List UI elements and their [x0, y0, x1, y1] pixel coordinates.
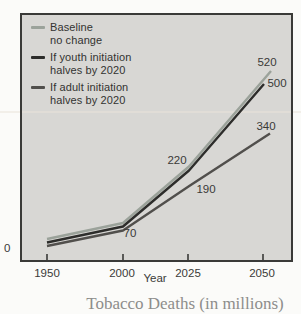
x-axis-title: Year [143, 272, 166, 284]
legend-label-youth-initiation: If youth initiation halves by 2020 [50, 51, 131, 76]
legend-youth-line2: halves by 2020 [50, 64, 125, 76]
x-tick-2050: 2050 [249, 267, 275, 279]
x-tick-1950: 1950 [34, 267, 60, 279]
x-tick-2000: 2000 [109, 267, 135, 279]
value-label-500: 500 [267, 77, 286, 89]
legend-entry-adult-initiation: If adult initiation halves by 2020 [31, 81, 131, 106]
legend-baseline-line2: no change [50, 34, 102, 46]
baseline-line-swatch [31, 26, 45, 29]
legend-entry-baseline: Baseline no change [31, 21, 131, 46]
legend: Baseline no change If youth initiation h… [31, 21, 131, 106]
value-label-220: 220 [167, 154, 186, 166]
legend-entry-youth-initiation: If youth initiation halves by 2020 [31, 51, 131, 76]
legend-adult-line2: halves by 2020 [50, 94, 125, 106]
value-label-70: 70 [124, 227, 137, 239]
legend-baseline-line1: Baseline [50, 21, 93, 33]
legend-youth-line1: If youth initiation [50, 51, 131, 63]
value-label-190: 190 [196, 183, 215, 195]
youth-initiation-line-swatch [31, 56, 45, 59]
x-tick-2025: 2025 [175, 267, 201, 279]
legend-adult-line1: If adult initiation [50, 81, 128, 93]
y-axis-origin-label: 0 [4, 242, 10, 254]
legend-label-adult-initiation: If adult initiation halves by 2020 [50, 81, 128, 106]
adult-initiation-line-swatch [31, 86, 45, 89]
value-label-340: 340 [256, 120, 275, 132]
legend-label-baseline: Baseline no change [50, 21, 102, 46]
value-label-520: 520 [257, 56, 276, 68]
figure-caption-cropped: Tobacco Deaths (in millions) [70, 294, 300, 314]
